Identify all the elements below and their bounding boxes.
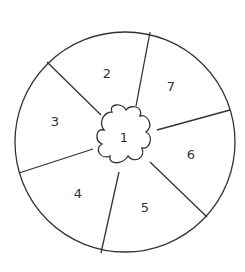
segment-label-3: 3 [51, 114, 59, 129]
segment-label-4: 4 [74, 186, 82, 201]
divider-4-5 [101, 172, 119, 253]
divider-2-7 [136, 32, 150, 106]
center-label: 1 [120, 130, 128, 145]
segment-label-5: 5 [141, 200, 149, 215]
segment-label-7: 7 [167, 79, 175, 94]
segment-label-2: 2 [103, 66, 111, 81]
divider-7-6 [157, 110, 230, 130]
divider-3-4 [19, 149, 93, 173]
segmented-circle-diagram: 1 2 7 3 6 4 5 [0, 0, 245, 272]
divider-6-5 [150, 162, 207, 217]
segment-label-6: 6 [187, 147, 195, 162]
divider-2-3 [47, 62, 101, 115]
